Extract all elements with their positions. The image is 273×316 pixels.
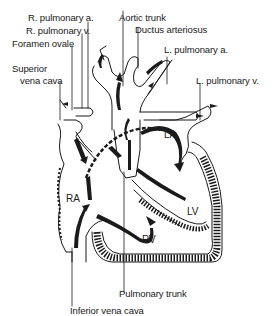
- chamber-ra: RA: [66, 193, 80, 204]
- label-l-pulmonary-v: L. pulmonary v.: [196, 75, 259, 86]
- label-pulmonary-trunk: Pulmonary trunk: [119, 288, 187, 299]
- chamber-lv: LV: [187, 206, 199, 217]
- label-l-pulmonary-a: L. pulmonary a.: [164, 44, 228, 55]
- chamber-la: LA: [164, 129, 176, 140]
- label-superior-vena-cava-line1: Superior: [12, 63, 47, 74]
- label-ductus-arteriosus: Ductus arteriosus: [135, 24, 207, 35]
- label-superior-vena-cava-line2: vena cava: [20, 75, 62, 86]
- label-aortic-trunk: Aortic trunk: [119, 12, 166, 23]
- label-inferior-vena-cava: Inferior vena cava: [70, 305, 144, 316]
- foramen-ovale-path: [86, 128, 160, 178]
- label-foramen-ovale: Foramen ovale: [12, 38, 74, 49]
- great-vessels: [92, 46, 198, 130]
- label-r-pulmonary-v: R. pulmonary v.: [26, 25, 90, 36]
- label-r-pulmonary-a: R. pulmonary a.: [28, 12, 94, 23]
- chamber-rv: RV: [142, 234, 156, 245]
